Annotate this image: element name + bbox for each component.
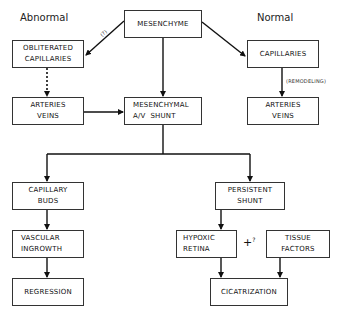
node-text: OBLITERATED bbox=[23, 43, 73, 54]
node-text: BUDS bbox=[38, 196, 59, 207]
node-text: PERSISTENT bbox=[228, 185, 273, 196]
node-text: ARTERIES bbox=[30, 100, 65, 111]
node-text: MESENCHYME bbox=[137, 19, 188, 30]
node-mesenchymal-shunt: MESENCHYMAL A/V SHUNT bbox=[124, 97, 202, 125]
node-text: MESENCHYMAL bbox=[133, 100, 189, 111]
node-text: CAPILLARY bbox=[28, 185, 67, 196]
node-obliterated-capillaries: OBLITERATED CAPILLARIES bbox=[12, 40, 84, 68]
node-text: A/V SHUNT bbox=[133, 111, 176, 122]
node-text: CAPILLARIES bbox=[260, 49, 307, 60]
node-capillary-buds: CAPILLARY BUDS bbox=[12, 182, 84, 210]
node-arteries-veins-right: ARTERIES VEINS bbox=[247, 97, 319, 125]
arrow-mesenchyme-to-capillaries bbox=[202, 22, 245, 56]
node-text: CICATRIZATION bbox=[221, 287, 277, 298]
node-text: TISSUE bbox=[285, 233, 311, 244]
node-cicatrization: CICATRIZATION bbox=[210, 278, 288, 306]
node-vascular-ingrowth: VASCULAR INGROWTH bbox=[12, 230, 84, 258]
edge-label-remodeling: (REMODELING) bbox=[286, 78, 326, 84]
node-text: VEINS bbox=[37, 111, 59, 122]
heading-abnormal: Abnormal bbox=[20, 12, 68, 23]
node-mesenchyme: MESENCHYME bbox=[124, 10, 202, 38]
plus-symbol: +? bbox=[243, 236, 255, 249]
node-text: VEINS bbox=[272, 111, 294, 122]
node-tissue-factors: TISSUE FACTORS bbox=[266, 230, 330, 258]
node-text: CAPILLARIES bbox=[25, 54, 72, 65]
node-persistent-shunt: PERSISTENT SHUNT bbox=[215, 182, 285, 210]
node-text: VASCULAR bbox=[21, 233, 60, 244]
node-capillaries: CAPILLARIES bbox=[247, 40, 319, 68]
node-hypoxic-retina: HYPOXIC RETINA bbox=[176, 230, 237, 258]
node-text: HYPOXIC bbox=[183, 233, 215, 244]
node-text: RETINA bbox=[183, 244, 210, 255]
plus-sign: + bbox=[243, 236, 252, 249]
node-text: ARTERIES bbox=[265, 100, 300, 111]
node-text: SHUNT bbox=[237, 196, 262, 207]
node-text: FACTORS bbox=[281, 244, 314, 255]
heading-normal: Normal bbox=[257, 12, 293, 23]
node-text: REGRESSION bbox=[24, 287, 72, 298]
arrow-mesenchyme-to-obliterated bbox=[86, 21, 124, 55]
node-text: INGROWTH bbox=[21, 244, 62, 255]
node-arteries-veins-left: ARTERIES VEINS bbox=[12, 97, 84, 125]
plus-question-mark: ? bbox=[252, 236, 255, 243]
node-regression: REGRESSION bbox=[12, 278, 84, 306]
